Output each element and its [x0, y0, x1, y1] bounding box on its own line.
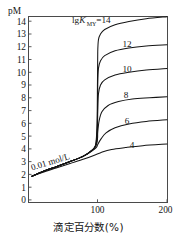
ytick-label-9: 9 [21, 80, 26, 90]
curve-lgk-6 [32, 120, 167, 177]
ytick-label-5: 5 [21, 132, 26, 142]
xtick-label-200: 200 [158, 205, 172, 215]
ytick-label-13: 13 [17, 29, 27, 39]
ytick-label-12: 12 [17, 42, 27, 52]
chart-figure: 14 13 12 11 10 9 8 7 6 5 4 3 2 1 0 pM 10… [0, 0, 177, 239]
ytick-label-8: 8 [21, 93, 26, 103]
annotation-main-parameter: lgK′MY=14 [72, 14, 111, 27]
ytick-label-2: 2 [21, 170, 26, 180]
ytick-label-6: 6 [21, 119, 26, 129]
ytick-label-10: 10 [17, 68, 27, 78]
ytick-label-3: 3 [21, 157, 26, 167]
ytick-label-0: 0 [21, 195, 26, 205]
curve-label-4: 4 [130, 140, 135, 150]
titration-curve-chart: 14 13 12 11 10 9 8 7 6 5 4 3 2 1 0 pM 10… [0, 0, 177, 239]
y-axis-unit-label: pM [8, 6, 22, 16]
x-axis-title: 滴定百分数(%) [0, 219, 177, 234]
curve-label-6: 6 [125, 116, 130, 126]
ytick-label-14: 14 [17, 17, 27, 27]
ytick-label-11: 11 [17, 55, 26, 65]
curve-label-12: 12 [122, 39, 132, 49]
curve-label-10: 10 [122, 64, 132, 74]
curve-label-8: 8 [124, 90, 129, 100]
curve-lgk-14 [32, 17, 167, 177]
x-axis-title-text: 滴定百分数(%) [53, 221, 124, 233]
xtick-label-100: 100 [90, 205, 104, 215]
ytick-label-1: 1 [21, 183, 26, 193]
ytick-label-4: 4 [21, 144, 26, 154]
ytick-label-7: 7 [21, 106, 26, 116]
